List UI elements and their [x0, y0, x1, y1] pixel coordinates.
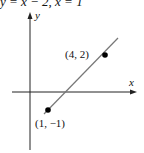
point-4-2	[102, 52, 108, 58]
graph	[0, 0, 144, 153]
x-axis-label: x	[129, 76, 134, 88]
y-axis-label: y	[35, 9, 40, 21]
point-label-4-2: (4, 2)	[65, 48, 89, 60]
x-axis-arrow-icon	[130, 90, 137, 95]
y-axis-arrow-icon	[28, 12, 33, 19]
point-label-1-neg1: (1, −1)	[35, 117, 65, 129]
point-1-neg1	[45, 107, 51, 113]
